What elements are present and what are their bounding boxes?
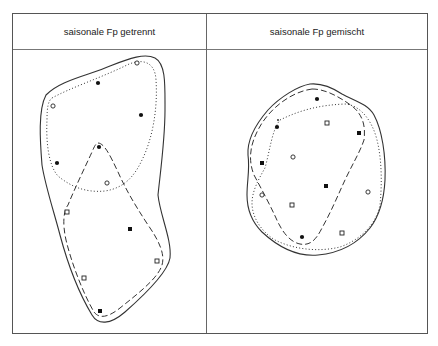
right-panel-envelopes [247, 84, 385, 255]
left-panel-envelopes [40, 56, 170, 322]
open-circle-marker [366, 190, 370, 194]
envelope-diagram [0, 0, 438, 346]
left-dotted-envelope [47, 62, 157, 192]
filled-circle-marker [97, 145, 101, 149]
open-square-marker [325, 121, 329, 125]
filled-square-marker [98, 309, 102, 313]
open-square-marker [155, 259, 159, 263]
open-square-marker [65, 210, 69, 214]
open-circle-marker [105, 181, 109, 185]
left-solid-envelope [40, 56, 170, 322]
right-solid-envelope [247, 84, 385, 255]
filled-square-marker [260, 161, 264, 165]
open-circle-marker [291, 155, 295, 159]
open-circle-marker [135, 61, 139, 65]
filled-circle-marker [139, 113, 143, 117]
filled-circle-marker [96, 81, 100, 85]
right-dashed-envelope [251, 89, 365, 244]
filled-circle-marker [315, 97, 319, 101]
filled-circle-marker [55, 161, 59, 165]
open-square-marker [82, 276, 86, 280]
open-square-marker [290, 203, 294, 207]
filled-square-marker [128, 227, 132, 231]
open-circle-marker [51, 104, 55, 108]
filled-square-marker [357, 131, 361, 135]
right-dotted-envelope [252, 104, 381, 250]
open-square-marker [340, 231, 344, 235]
filled-circle-marker [275, 125, 279, 129]
filled-circle-marker [300, 235, 304, 239]
open-circle-marker [260, 193, 264, 197]
small-dot-marker [277, 119, 279, 121]
filled-square-marker [324, 184, 328, 188]
left-panel-markers [51, 61, 159, 313]
